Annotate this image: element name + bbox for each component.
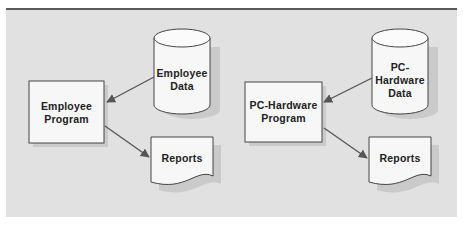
pc-hardware-data-label: PC- Hardware Data bbox=[372, 61, 428, 100]
pc-hardware-data-label-line1: PC- bbox=[372, 61, 428, 74]
pc-hardware-program-label-line2: Program bbox=[245, 112, 322, 125]
employee-data-label: Employee Data bbox=[154, 67, 210, 93]
employee-reports-label: Reports bbox=[151, 152, 213, 165]
pc-hardware-data-label-line2: Hardware bbox=[372, 74, 428, 87]
employee-program-label-line1: Employee bbox=[29, 100, 104, 113]
employee-data-label-line2: Data bbox=[154, 80, 210, 93]
employee-data-label-line1: Employee bbox=[154, 67, 210, 80]
arrow-hw-data-to-program bbox=[324, 78, 372, 102]
arrow-program-to-reports bbox=[105, 126, 149, 157]
pc-hardware-program-label-line1: PC-Hardware bbox=[245, 99, 322, 112]
arrow-data-to-program bbox=[107, 77, 154, 102]
arrow-hw-program-to-reports bbox=[324, 128, 367, 158]
pc-hardware-reports-label: Reports bbox=[369, 152, 431, 165]
pc-hardware-data-label-line3: Data bbox=[372, 87, 428, 100]
employee-program-label-line2: Program bbox=[29, 113, 104, 126]
employee-program-label: Employee Program bbox=[29, 100, 104, 126]
pc-hardware-program-label: PC-Hardware Program bbox=[245, 99, 322, 125]
